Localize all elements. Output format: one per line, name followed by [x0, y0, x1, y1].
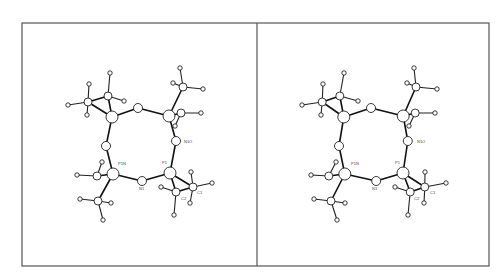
- atom-label-p1: P1: [395, 160, 401, 165]
- hydrogen-atom: [407, 124, 411, 128]
- hydrogen-atom: [109, 201, 113, 205]
- hydrogen-atom: [172, 213, 176, 217]
- hydrogen-atom: [122, 99, 126, 103]
- hydrogen-atom: [188, 201, 192, 205]
- atom-label-p1n: P1N: [118, 161, 126, 166]
- hydrogen-atom: [405, 81, 409, 85]
- atom-pb: [163, 110, 175, 122]
- atom-cc1: [93, 172, 101, 180]
- atom-cc2: [94, 197, 102, 205]
- atom-pb: [397, 110, 409, 122]
- hydrogen-atom: [173, 124, 177, 128]
- hydrogen-atom: [356, 99, 360, 103]
- atom-oa: [367, 104, 376, 113]
- hydrogen-atom: [108, 71, 112, 75]
- hydrogen-atom: [199, 111, 203, 115]
- atom-c2: [172, 188, 180, 196]
- atom-nb: [102, 142, 111, 151]
- atom-label-c2: C2: [181, 196, 187, 201]
- atom-n1: [138, 177, 147, 186]
- hydrogen-atom: [85, 113, 89, 117]
- atom-label-n1o: N1O: [184, 139, 192, 144]
- hydrogen-atom: [87, 82, 91, 86]
- atom-label-n1o: N1O: [417, 139, 425, 144]
- hydrogen-atom: [321, 82, 325, 86]
- hydrogen-atom: [334, 160, 338, 164]
- hydrogen-atom: [412, 66, 416, 70]
- hydrogen-atom: [100, 160, 104, 164]
- atom-pa: [106, 111, 118, 123]
- atom-nb: [335, 142, 344, 151]
- hydrogen-atom: [189, 170, 193, 174]
- atom-label-c2: C2: [414, 196, 420, 201]
- figure-frame: [22, 23, 489, 266]
- hydrogen-atom: [444, 181, 448, 185]
- hydrogen-atom: [178, 66, 182, 70]
- hydrogen-atom: [159, 185, 163, 189]
- atom-p1n: [107, 168, 119, 180]
- atom-cb1: [412, 83, 420, 91]
- atom-n1o: [403, 137, 412, 146]
- atom-label-c1: C1: [430, 190, 436, 195]
- atom-cb2: [411, 109, 419, 117]
- atom-cb1: [179, 83, 187, 91]
- atom-p1n: [339, 168, 351, 180]
- atom-label-p1: P1: [162, 160, 168, 165]
- hydrogen-atom: [210, 181, 214, 185]
- atom-c1: [189, 183, 197, 191]
- atom-oa: [134, 104, 143, 113]
- atom-c1: [421, 183, 429, 191]
- atom-cc1: [325, 172, 333, 180]
- left-stereo-panel: P1NP1N1N1OC2C1: [66, 66, 214, 222]
- atom-ca1: [84, 98, 92, 106]
- atom-c2: [406, 188, 414, 196]
- hydrogen-atom: [171, 81, 175, 85]
- hydrogen-atom: [101, 218, 105, 222]
- hydrogen-atom: [201, 87, 205, 91]
- atom-ca1: [318, 98, 326, 106]
- hydrogen-atom: [423, 170, 427, 174]
- hydrogen-atom: [393, 185, 397, 189]
- hydrogen-atom: [78, 197, 82, 201]
- hydrogen-atom: [422, 201, 426, 205]
- atom-p1: [397, 167, 409, 179]
- hydrogen-atom: [433, 111, 437, 115]
- atom-label-p1n: P1N: [351, 161, 359, 166]
- stereo-molecule-figure: P1NP1N1N1OC2C1 P1NP1N1N1OC2C1: [0, 0, 503, 277]
- atom-cb2: [177, 109, 185, 117]
- atom-ca2: [104, 92, 112, 100]
- hydrogen-atom: [300, 103, 304, 107]
- hydrogen-atom: [342, 71, 346, 75]
- hydrogen-atom: [435, 87, 439, 91]
- hydrogen-atom: [335, 218, 339, 222]
- hydrogen-atom: [343, 201, 347, 205]
- atom-label-n1: N1: [139, 186, 145, 191]
- hydrogen-atom: [66, 103, 70, 107]
- atom-n1o: [172, 137, 181, 146]
- hydrogen-atom: [309, 173, 313, 177]
- hydrogen-atom: [312, 197, 316, 201]
- atom-label-c1: C1: [197, 190, 203, 195]
- hydrogen-atom: [75, 173, 79, 177]
- atom-label-n1: N1: [372, 186, 378, 191]
- atom-pa: [338, 111, 350, 123]
- atom-n1: [372, 177, 381, 186]
- hydrogen-atom: [319, 113, 323, 117]
- atom-cc2: [327, 197, 335, 205]
- atom-p1: [164, 167, 176, 179]
- hydrogen-atom: [406, 213, 410, 217]
- right-stereo-panel: P1NP1N1N1OC2C1: [300, 66, 448, 222]
- atom-ca2: [336, 92, 344, 100]
